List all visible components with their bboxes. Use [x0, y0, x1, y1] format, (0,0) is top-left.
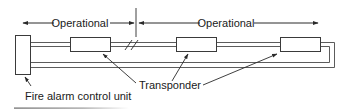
control-unit-label: Fire alarm control unit [25, 90, 131, 102]
control-unit-box [16, 36, 31, 75]
control-unit-leader-icon [25, 77, 31, 86]
transponder-box-1 [71, 38, 111, 52]
bottom-rule [14, 108, 129, 109]
fire-alarm-diagram: Operational Operational [0, 0, 348, 110]
transponder-box-2 [177, 38, 217, 52]
break-slash-icon [125, 40, 138, 50]
top-wire-pair [31, 43, 280, 47]
leader-arrow-icon [103, 54, 136, 83]
operational-right-label: Operational [198, 17, 255, 29]
transponder-box-3 [281, 38, 321, 52]
transponder-label: Transponder [139, 79, 201, 91]
diagram-svg: Operational Operational [0, 0, 348, 110]
dimension-right: Operational [139, 17, 318, 29]
leader-arrow-icon [203, 54, 277, 85]
operational-left-label: Operational [52, 17, 109, 29]
dimension-left: Operational [23, 17, 134, 29]
